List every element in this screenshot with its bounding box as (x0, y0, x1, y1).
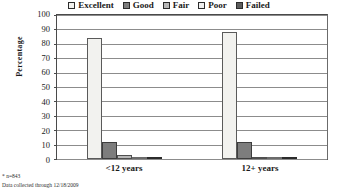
legend-swatch-excellent (68, 2, 75, 9)
bar-12-years-fair[interactable] (252, 157, 267, 159)
y-tick-30: 30 (42, 112, 51, 121)
plot-area (56, 14, 328, 160)
y-tick-50: 50 (42, 83, 51, 92)
bar-12-years-poor[interactable] (132, 157, 147, 159)
bar-12-years-fair[interactable] (117, 155, 132, 159)
legend-label-good: Good (133, 1, 154, 10)
y-axis-tick-labels: 0102030405060708090100 (26, 14, 50, 160)
y-tick-70: 70 (42, 54, 51, 63)
y-tick-60: 60 (42, 68, 51, 77)
y-tick-10: 10 (42, 141, 51, 150)
footnote-1: * n=843 (2, 172, 79, 181)
bar-12-years-excellent[interactable] (87, 38, 102, 159)
chart-legend: ExcellentGoodFairPoorFailed (0, 1, 338, 10)
y-tick-20: 20 (42, 127, 51, 136)
legend-item-excellent[interactable]: Excellent (68, 1, 114, 10)
bar-group-12-years (57, 15, 192, 159)
legend-swatch-good (123, 2, 130, 9)
legend-label-fair: Fair (173, 1, 190, 10)
legend-label-poor: Poor (208, 1, 227, 10)
y-tick-0: 0 (46, 156, 50, 165)
bar-12-years-excellent[interactable] (222, 32, 237, 159)
legend-item-poor[interactable]: Poor (198, 1, 227, 10)
legend-label-failed: Failed (246, 1, 270, 10)
legend-item-failed[interactable]: Failed (236, 1, 270, 10)
legend-swatch-fair (163, 2, 170, 9)
bar-12-years-good[interactable] (102, 142, 117, 159)
y-axis-title: Percentage (15, 22, 24, 92)
x-label-12-years: 12+ years (192, 163, 328, 173)
bar-group-12-years (192, 15, 327, 159)
legend-label-excellent: Excellent (78, 1, 114, 10)
y-tick-100: 100 (37, 10, 50, 19)
legend-item-good[interactable]: Good (123, 1, 154, 10)
legend-item-fair[interactable]: Fair (163, 1, 190, 10)
y-tick-90: 90 (42, 24, 51, 33)
chart-footnotes: * n=843Data collected through 12/18/2009 (2, 172, 79, 189)
bar-12-years-failed[interactable] (147, 157, 162, 159)
legend-swatch-poor (198, 2, 205, 9)
footnote-2: Data collected through 12/18/2009 (2, 181, 79, 190)
y-tick-80: 80 (42, 39, 51, 48)
gridline-0 (57, 159, 327, 160)
x-axis-tick-labels: <12 years12+ years (56, 163, 328, 173)
legend-swatch-failed (236, 2, 243, 9)
bar-12-years-good[interactable] (237, 142, 252, 159)
bar-groups (57, 15, 327, 159)
bar-12-years-failed[interactable] (282, 157, 297, 159)
bar-chart: ExcellentGoodFairPoorFailed Percentage 0… (0, 0, 338, 192)
y-tick-40: 40 (42, 97, 51, 106)
bar-12-years-poor[interactable] (267, 157, 282, 159)
y-tickmark-0 (54, 159, 57, 160)
